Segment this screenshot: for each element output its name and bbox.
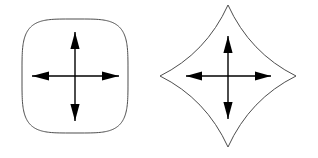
shape-diagram-svg <box>0 0 318 158</box>
shape-group-squircle <box>22 19 128 133</box>
figure-canvas <box>0 0 318 158</box>
shape-group-astroid <box>160 5 296 147</box>
